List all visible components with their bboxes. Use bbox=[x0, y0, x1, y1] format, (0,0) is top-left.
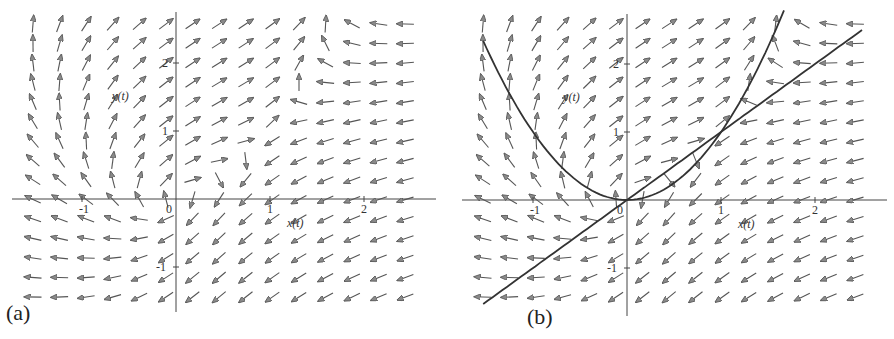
field-arrow bbox=[767, 120, 784, 124]
field-arrow bbox=[318, 293, 333, 301]
field-arrow bbox=[555, 295, 571, 300]
field-arrow bbox=[663, 272, 676, 283]
field-arrow bbox=[661, 158, 677, 162]
field-arrow bbox=[847, 101, 864, 104]
field-arrow bbox=[370, 63, 387, 64]
y-tick-label: 2 bbox=[162, 56, 168, 70]
field-arrow bbox=[635, 177, 651, 183]
field-arrow bbox=[767, 101, 784, 103]
field-arrow bbox=[768, 158, 784, 164]
field-arrow bbox=[371, 158, 387, 163]
phase-portrait-b: -1012-112x(t)y(t) (b) bbox=[447, 0, 894, 339]
field-arrow bbox=[212, 59, 226, 68]
field-arrow bbox=[716, 77, 730, 87]
field-arrow bbox=[29, 114, 38, 129]
field-arrow bbox=[508, 113, 512, 130]
nullclines bbox=[483, 10, 862, 304]
field-arrow bbox=[716, 39, 730, 49]
field-arrow bbox=[509, 74, 510, 91]
field-arrow bbox=[213, 252, 226, 263]
field-arrow bbox=[397, 236, 413, 241]
field-arrow bbox=[266, 77, 280, 87]
field-arrow bbox=[716, 292, 730, 302]
field-arrow bbox=[317, 101, 334, 103]
field-arrow bbox=[794, 101, 811, 104]
field-arrow bbox=[133, 18, 146, 29]
field-arrow bbox=[318, 235, 333, 243]
field-arrow bbox=[691, 173, 701, 187]
field-arrow bbox=[716, 253, 730, 263]
field-arrow bbox=[239, 59, 253, 68]
field-arrow bbox=[689, 253, 702, 264]
field-arrow bbox=[768, 274, 783, 282]
vector-field-plot-b: -1012-112x(t)y(t) bbox=[447, 0, 894, 339]
field-arrow bbox=[716, 58, 730, 68]
field-arrow bbox=[610, 155, 623, 166]
field-arrow bbox=[112, 152, 114, 169]
field-arrow bbox=[344, 235, 360, 242]
field-arrow bbox=[32, 16, 33, 33]
field-arrow bbox=[78, 258, 95, 259]
field-arrow bbox=[847, 236, 863, 241]
y-axis-label: y(t) bbox=[111, 89, 129, 103]
field-arrow bbox=[584, 96, 596, 108]
field-arrow bbox=[478, 135, 489, 148]
field-arrow bbox=[266, 234, 280, 244]
field-arrow bbox=[27, 155, 40, 166]
field-arrow bbox=[636, 97, 650, 106]
field-arrow bbox=[795, 20, 810, 29]
field-arrow bbox=[185, 157, 200, 165]
field-arrow bbox=[110, 133, 116, 149]
field-arrow bbox=[397, 62, 414, 63]
field-arrow bbox=[30, 94, 37, 110]
field-arrow bbox=[636, 253, 649, 264]
field-arrow bbox=[344, 63, 361, 64]
field-arrow bbox=[555, 276, 572, 279]
x-tick-label: 0 bbox=[166, 202, 172, 216]
field-arrow bbox=[794, 62, 811, 63]
field-arrow bbox=[847, 24, 864, 25]
field-arrow bbox=[104, 238, 121, 239]
field-arrow bbox=[821, 139, 838, 143]
field-arrow bbox=[291, 138, 307, 144]
field-arrow bbox=[821, 216, 837, 222]
field-arrow bbox=[344, 42, 361, 46]
field-arrow bbox=[58, 55, 61, 72]
field-arrow bbox=[741, 157, 756, 164]
y-tick-label: -1 bbox=[156, 260, 166, 274]
field-arrow bbox=[159, 97, 172, 107]
field-arrow bbox=[239, 233, 252, 244]
field-arrow bbox=[397, 82, 414, 84]
field-arrow bbox=[83, 75, 90, 91]
field-arrow bbox=[397, 216, 413, 221]
field-arrow bbox=[482, 16, 483, 33]
field-arrow bbox=[582, 274, 598, 280]
field-arrow bbox=[245, 152, 247, 169]
x-tick-label: 2 bbox=[361, 202, 367, 216]
field-arrow bbox=[186, 39, 200, 49]
field-arrow bbox=[610, 174, 622, 186]
field-arrow bbox=[107, 18, 118, 31]
field-arrow bbox=[662, 98, 677, 107]
field-arrow bbox=[794, 139, 810, 144]
field-arrow bbox=[768, 235, 783, 243]
field-arrow bbox=[239, 39, 253, 48]
field-arrow bbox=[508, 55, 511, 72]
field-arrow bbox=[265, 137, 279, 146]
field-arrow bbox=[688, 139, 704, 144]
field-arrow bbox=[583, 57, 595, 69]
field-arrow bbox=[609, 97, 622, 108]
field-arrow bbox=[371, 178, 387, 183]
field-arrow bbox=[475, 257, 492, 260]
field-arrow bbox=[160, 174, 172, 186]
field-arrow bbox=[317, 120, 334, 124]
field-arrow bbox=[794, 177, 810, 183]
nullcline-line bbox=[483, 30, 862, 304]
field-arrow bbox=[53, 174, 66, 185]
field-arrow bbox=[481, 74, 485, 90]
y-tick-label: 1 bbox=[162, 124, 168, 138]
field-arrow bbox=[318, 215, 333, 222]
field-arrow bbox=[476, 175, 490, 184]
field-arrow bbox=[821, 294, 837, 301]
field-arrow bbox=[555, 216, 571, 222]
